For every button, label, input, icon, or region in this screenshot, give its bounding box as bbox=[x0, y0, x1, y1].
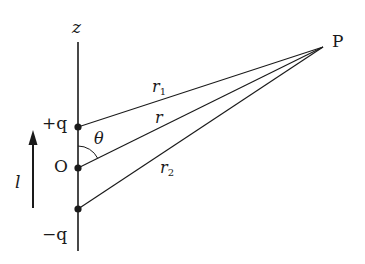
point-p-label: P bbox=[332, 33, 343, 50]
distance-r2-sub: 2 bbox=[168, 167, 174, 178]
line-r1 bbox=[78, 47, 323, 127]
distance-r1-main: r bbox=[152, 77, 160, 96]
distance-r2-label: r2 bbox=[160, 160, 174, 178]
positive-charge-label: +q bbox=[42, 115, 67, 132]
distance-r1-label: r1 bbox=[152, 79, 166, 97]
separation-label: l bbox=[15, 174, 20, 191]
negative-charge-label: −q bbox=[42, 226, 67, 243]
origin-label: O bbox=[54, 158, 68, 175]
separation-arrow-head-icon bbox=[29, 130, 38, 145]
angle-theta-label: θ bbox=[94, 131, 104, 147]
z-axis-label: z bbox=[72, 19, 81, 36]
line-r bbox=[78, 47, 323, 168]
distance-r2-main: r bbox=[160, 158, 168, 177]
origin-dot bbox=[74, 164, 81, 171]
line-r2 bbox=[78, 47, 323, 209]
negative-charge-dot bbox=[74, 205, 81, 212]
dipole-diagram: z P +q O −q l θ r1 r r2 bbox=[0, 0, 365, 264]
distance-r-label: r bbox=[155, 110, 163, 126]
distance-r1-sub: 1 bbox=[160, 86, 166, 97]
positive-charge-dot bbox=[74, 123, 81, 130]
